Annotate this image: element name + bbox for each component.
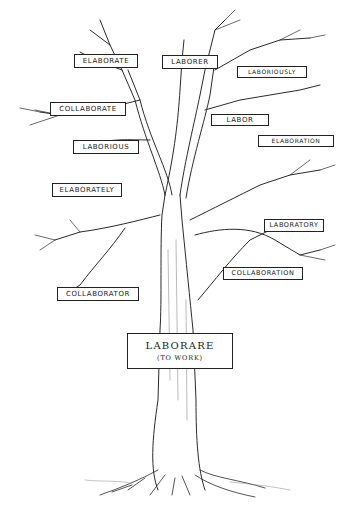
root-gloss: (TO WORK) <box>157 354 203 362</box>
roots <box>100 470 265 497</box>
label-laboratory: LABORATORY <box>264 219 324 232</box>
label-elaborately: ELABORATELY <box>52 183 122 197</box>
label-collaborator: COLLABORATOR <box>57 287 139 301</box>
label-elaborate: ELABORATE <box>74 54 138 68</box>
label-laborious: LABORIOUS <box>73 140 139 154</box>
label-labor: LABOR <box>211 114 269 126</box>
label-collaboration: COLLABORATION <box>223 267 303 280</box>
label-collaborate: COLLABORATE <box>50 102 126 116</box>
label-laborer: LABORER <box>162 55 218 69</box>
root-sign: LABORARE (TO WORK) <box>127 333 233 369</box>
label-elaboration: ELABORATION <box>258 135 334 147</box>
root-word: LABORARE <box>146 340 215 351</box>
label-laboriously: LABORIOUSLY <box>237 66 307 78</box>
